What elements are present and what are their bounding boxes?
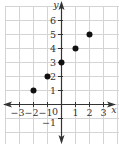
x-tick-label: 1	[72, 107, 78, 118]
coordinate-plane: −3−2−1123−11234560xy	[0, 0, 119, 144]
y-tick-label: 3	[50, 57, 56, 68]
data-point	[73, 46, 79, 52]
y-axis-label: y	[52, 0, 59, 10]
x-tick-label: 3	[100, 107, 106, 118]
data-point	[45, 74, 51, 80]
y-tick-label: 2	[50, 71, 56, 82]
y-tick-label: 5	[50, 29, 56, 40]
scatter-plot: −3−2−1123−11234560xy	[0, 0, 119, 144]
y-tick-label: 6	[50, 15, 56, 26]
x-tick-label: −2	[24, 107, 38, 118]
x-tick-label: −3	[10, 107, 24, 118]
y-tick-label: 1	[50, 85, 56, 96]
y-tick-label: −1	[42, 117, 56, 128]
data-point	[59, 60, 65, 66]
data-point	[31, 88, 37, 94]
origin-label: 0	[52, 106, 58, 117]
x-axis-label: x	[111, 104, 117, 115]
x-tick-label: 2	[86, 107, 92, 118]
data-point	[87, 32, 93, 38]
y-tick-label: 4	[50, 43, 56, 54]
